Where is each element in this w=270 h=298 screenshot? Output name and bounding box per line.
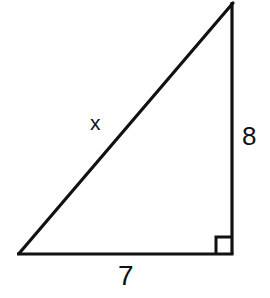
triangle-drawing [0,0,270,298]
hypotenuse-label: x [90,112,101,133]
base-leg-label: 7 [118,262,134,290]
hypotenuse-line [19,3,233,254]
right-angle-marker-icon [216,237,232,253]
vertical-leg-label: 8 [242,123,256,149]
triangle-diagram: x 8 7 [0,0,270,298]
